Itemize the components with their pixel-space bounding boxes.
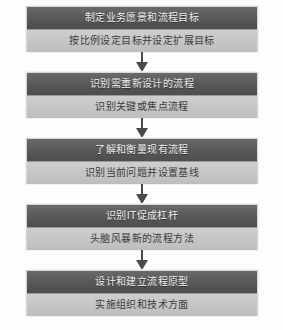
flow-step-3[interactable]: 了解和衡量现有流程 识别当前问题并设置基线 — [26, 138, 258, 184]
flow-step-2-title: 识别需重新设计的流程 — [27, 73, 257, 96]
flow-step-3-subtitle: 识别当前问题并设置基线 — [27, 162, 257, 184]
arrow-step-2-to-3-icon — [136, 118, 148, 138]
flow-step-1-title: 制定业务愿景和流程目标 — [27, 7, 257, 30]
flow-step-2-subtitle: 识别关键或焦点流程 — [27, 96, 257, 118]
flow-step-5-title: 设计和建立流程原型 — [27, 271, 257, 294]
flow-step-1[interactable]: 制定业务愿景和流程目标 按比例设定目标并设定扩展目标 — [26, 6, 258, 52]
arrow-head — [136, 194, 148, 204]
flow-step-4[interactable]: 识别IT促成杠杆 头脑风暴新的流程方法 — [26, 204, 258, 250]
flow-step-2[interactable]: 识别需重新设计的流程 识别关键或焦点流程 — [26, 72, 258, 118]
process-flowchart: 制定业务愿景和流程目标 按比例设定目标并设定扩展目标 识别需重新设计的流程 识别… — [0, 0, 283, 330]
arrow-step-4-to-5-icon — [136, 250, 148, 270]
flow-step-5[interactable]: 设计和建立流程原型 实施组织和技术方面 — [26, 270, 258, 316]
flow-step-5-subtitle: 实施组织和技术方面 — [27, 294, 257, 316]
arrow-step-3-to-4-icon — [136, 184, 148, 204]
arrow-step-1-to-2-icon — [136, 52, 148, 72]
flow-step-3-title: 了解和衡量现有流程 — [27, 139, 257, 162]
flow-step-1-subtitle: 按比例设定目标并设定扩展目标 — [27, 30, 257, 52]
flow-step-4-title: 识别IT促成杠杆 — [27, 205, 257, 228]
flow-step-4-subtitle: 头脑风暴新的流程方法 — [27, 228, 257, 250]
arrow-head — [136, 128, 148, 138]
arrow-head — [136, 260, 148, 270]
arrow-head — [136, 62, 148, 72]
